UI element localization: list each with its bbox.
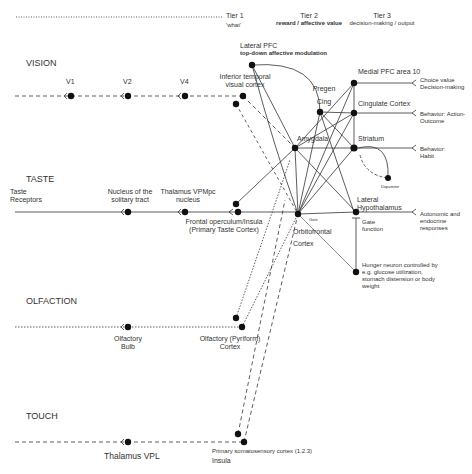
node-insula: Insula [212,457,231,465]
node-frontal-operculum: Frontal operculum/Insula (Primary Taste … [172,218,276,234]
modality-vision: VISION [26,59,57,67]
node-taste-receptors: Taste Receptors [10,188,50,204]
node-thalamus-vpmpc: Thalamus VPMpc nucleus [160,188,216,204]
modality-olfaction: OLFACTION [26,297,77,305]
node-nucleus-solitary: Nucleus of the solitary tract [103,188,157,204]
node-inferior-temporal: Inferior temporal visual cortex [210,73,280,89]
tier-1-title: Tier 1 [226,12,244,20]
node-gate-function: Gate function [362,219,392,233]
node-striatum: Striatum [358,135,384,143]
node-lateral-hypothalamus: Lateral Hypothalamus [357,196,407,212]
tier-3-subtitle: decision-making / output [342,20,422,27]
modality-taste: TASTE [26,175,54,183]
node-v2: V2 [123,78,132,86]
tier-1-subtitle: 'what' [226,22,241,29]
node-medial-pfc: Medial PFC area 10 [358,68,420,76]
node-v1: V1 [66,78,75,86]
node-gate: Gate [309,217,318,222]
node-cingulate: Cingulate Cortex [358,100,410,108]
node-lateral-pfc-sub: top-down affective modulation [240,50,327,57]
output-action-outcome: Behavior: Action-Outcome [420,111,472,125]
output-autonomic: Autonomic and endocrine responses [420,211,470,232]
node-amygdala: Amygdala [297,135,328,143]
output-choice: Choice value Decision-making [420,77,472,91]
node-thalamus-vpl: Thalamus VPL [104,452,160,462]
node-pregen-cing: Pregen Cing [312,82,336,108]
node-dopamine: Dopamine [381,184,399,189]
node-hunger-neuron: Hunger neuron controlled by e.g. glucose… [362,262,444,290]
output-habit: Behavior: Habit [420,146,460,160]
tier-2-subtitle: reward / affective value [270,20,348,27]
node-olfactory-bulb: Olfactory Bulb [108,335,148,351]
node-v4: V4 [180,78,189,86]
node-somatosensory: Primary somatosensory cortex (1.2.3) [212,448,312,455]
node-orbitofrontal: Orbitofrontal Cortex [293,226,333,250]
modality-touch: TOUCH [26,412,58,420]
node-olfactory-cortex: Olfactory (Pyriform) Cortex [190,335,270,351]
tier-2-title: Tier 2 [284,12,334,20]
node-lateral-pfc: Lateral PFC [240,42,277,50]
tier-3-title: Tier 3 [352,12,412,20]
